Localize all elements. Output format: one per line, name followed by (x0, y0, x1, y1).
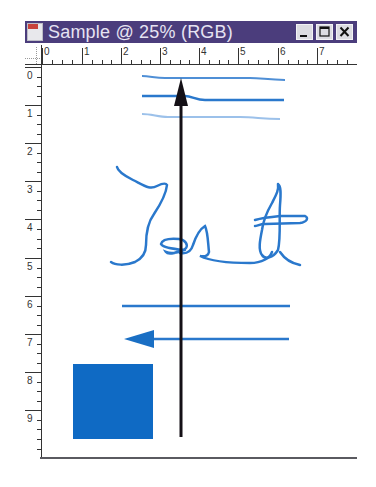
v-ruler-label: 7 (27, 338, 33, 348)
v-ruler-label: 9 (27, 414, 33, 424)
window-bottom-border (40, 457, 357, 459)
v-ruler-label: 8 (27, 376, 33, 386)
document-icon[interactable] (27, 23, 43, 41)
h-ruler-label: 1 (84, 47, 90, 57)
h-ruler-label: 5 (240, 47, 246, 57)
minimize-button[interactable] (296, 24, 313, 40)
maximize-button[interactable] (316, 24, 333, 40)
v-ruler-label: 1 (27, 109, 33, 119)
window-title: Sample @ 25% (RGB) (48, 21, 233, 43)
h-ruler-label: 7 (319, 47, 325, 57)
h-ruler-label: 4 (201, 47, 207, 57)
horizontal-ruler[interactable]: 0 1 2 3 4 5 6 7 (25, 43, 357, 65)
v-ruler-label: 2 (27, 147, 33, 157)
h-ruler-label: 3 (162, 47, 168, 57)
h-ruler-label: 0 (44, 47, 50, 57)
close-icon (337, 25, 352, 39)
minimize-icon (297, 25, 312, 39)
v-ruler-label: 3 (27, 185, 33, 195)
v-ruler-label: 0 (27, 71, 33, 81)
title-bar[interactable]: Sample @ 25% (RGB) (25, 21, 357, 43)
vertical-ruler[interactable]: 0 1 2 3 4 5 6 7 8 9 (25, 65, 42, 461)
v-ruler-label: 6 (27, 300, 33, 310)
maximize-icon (317, 25, 332, 39)
horizontal-ruler-ticks (25, 43, 357, 65)
v-ruler-label: 4 (27, 223, 33, 233)
h-ruler-label: 2 (123, 47, 129, 57)
v-ruler-label: 5 (27, 262, 33, 272)
document-window: Sample @ 25% (RGB) (25, 21, 357, 461)
close-button[interactable] (336, 24, 353, 40)
h-ruler-label: 6 (280, 47, 286, 57)
image-canvas[interactable] (42, 65, 357, 459)
